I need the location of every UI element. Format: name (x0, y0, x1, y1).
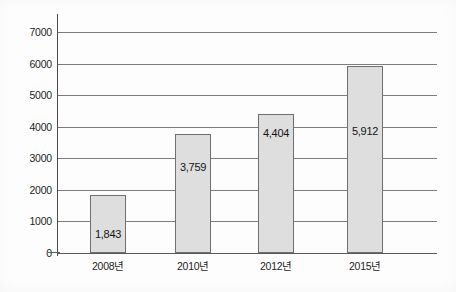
y-tick-label: 7000 (4, 26, 52, 38)
x-tick-label: 2015년 (349, 258, 381, 273)
y-tick-label: 1000 (4, 215, 52, 227)
x-tick-label: 2008년 (92, 258, 124, 273)
plot-area: 1,843 3,759 4,404 5,912 (58, 32, 437, 253)
bar-value-label: 1,843 (95, 228, 121, 240)
x-axis-baseline (58, 253, 437, 254)
y-tick-label: 3000 (4, 152, 52, 164)
y-tick-label: 6000 (4, 58, 52, 70)
y-tick-label: 5000 (4, 89, 52, 101)
gridline (58, 64, 437, 65)
x-tick-label: 2012년 (260, 258, 292, 273)
y-tick-label: 4000 (4, 121, 52, 133)
y-axis-labels: 7000 6000 5000 4000 3000 2000 1000 0 (0, 32, 52, 253)
bar: 4,404 (258, 114, 294, 253)
y-tick-label: 0 (4, 247, 52, 259)
bar-value-label: 4,404 (263, 127, 289, 139)
bar: 1,843 (90, 195, 126, 253)
bar-value-label: 5,912 (352, 125, 378, 137)
gridline (58, 32, 437, 33)
x-tick-label: 2010년 (177, 258, 209, 273)
bar: 3,759 (175, 134, 211, 253)
y-tick-label: 2000 (4, 184, 52, 196)
bar-chart: 7000 6000 5000 4000 3000 2000 1000 0 1,8… (0, 0, 456, 292)
bar-value-label: 3,759 (180, 161, 206, 173)
bar: 5,912 (347, 66, 383, 253)
